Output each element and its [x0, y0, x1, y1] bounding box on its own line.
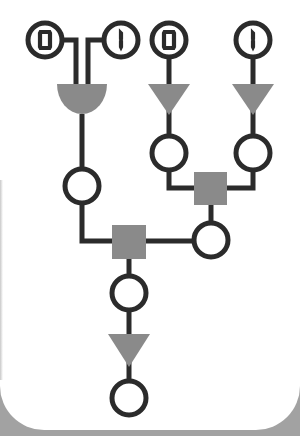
circuit-diagram	[0, 0, 300, 436]
input-ring[interactable]	[28, 23, 62, 57]
input-1-right[interactable]	[236, 23, 270, 57]
wire-slot-left-square-lower	[82, 203, 112, 241]
not-gate-triangle-icon-2[interactable]	[232, 84, 274, 115]
empty-slot-right-lower[interactable]	[194, 223, 228, 257]
empty-slot-mid-right[interactable]	[236, 136, 270, 170]
square-gate-upper[interactable]	[194, 172, 227, 205]
wire-in2-and	[88, 40, 104, 86]
digit-one-icon	[120, 31, 122, 49]
empty-slot-center[interactable]	[112, 276, 146, 310]
wire-in1-and	[62, 40, 76, 86]
square-gate-lower[interactable]	[112, 225, 146, 259]
input-ring[interactable]	[152, 23, 186, 57]
not-gate-triangle-icon-3[interactable]	[108, 334, 150, 367]
input-0-right[interactable]	[152, 23, 186, 57]
digit-one-icon	[252, 31, 254, 49]
input-1-left[interactable]	[104, 23, 138, 57]
input-0-left[interactable]	[28, 23, 62, 57]
wire-slot-mid-left-square-upper	[169, 170, 194, 188]
not-gate-triangle-icon-1[interactable]	[148, 84, 190, 115]
output-slot[interactable]	[112, 381, 146, 415]
empty-slot-mid-left[interactable]	[152, 136, 186, 170]
empty-slot-left[interactable]	[65, 169, 99, 203]
wire-slot-mid-right-square-upper	[227, 170, 253, 188]
and-gate-icon[interactable]	[57, 84, 107, 114]
game-frame	[0, 0, 300, 436]
